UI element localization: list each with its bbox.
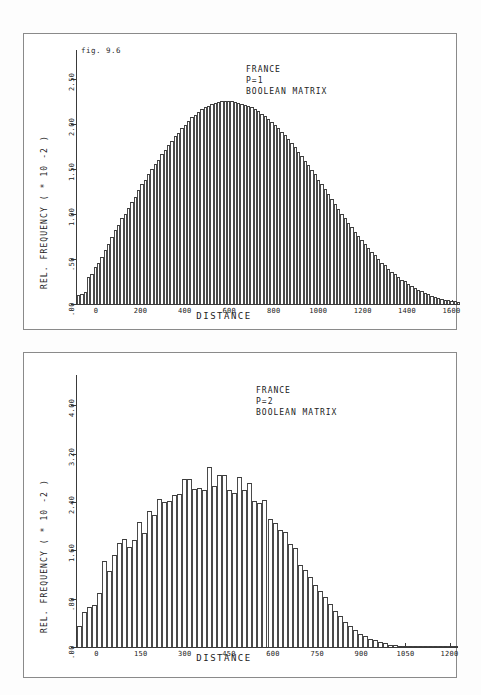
y-axis-tick-label: 3.20	[68, 447, 76, 465]
x-axis-title-2: DISTANCE	[124, 653, 324, 663]
y-axis-tick-label: 1.60	[68, 544, 76, 562]
y-axis-title-2: REL. FREQUENCY ( * 10 -2 )	[40, 479, 49, 633]
plot-area-1: .00.501.001.502.002.50020040060080010001…	[24, 34, 458, 331]
y-axis-tick-label: 1.00	[68, 207, 76, 225]
x-axis-tick-label: 1050	[385, 650, 425, 658]
x-axis-line	[76, 647, 458, 648]
y-axis-tick-label: .50	[68, 257, 76, 271]
y-axis-tick-label: 2.40	[68, 495, 76, 513]
histogram-bar	[453, 646, 458, 647]
y-axis-tick-label: 4.00	[68, 399, 76, 417]
y-axis-tick-label: 1.50	[68, 162, 76, 180]
x-axis-tick-label: 1200	[343, 307, 383, 315]
x-axis-title-1: DISTANCE	[124, 311, 324, 321]
x-axis-tick-label: 1400	[387, 307, 427, 315]
y-axis-tick-label: .00	[68, 645, 76, 659]
x-axis-tick-label: 1600	[432, 307, 472, 315]
y-axis-tick-label: .80	[68, 597, 76, 611]
x-axis-tick-label: 1200	[430, 650, 470, 658]
histogram-bar	[457, 302, 460, 304]
x-axis-tick-label: 900	[341, 650, 381, 658]
x-axis-tick-label: 0	[77, 650, 117, 658]
plot-area-2: .00.801.602.403.204.00015030045060075090…	[24, 353, 458, 679]
histogram-bars	[76, 381, 458, 647]
histogram-bars	[76, 56, 460, 304]
y-axis-tick-label: 2.50	[68, 72, 76, 90]
x-axis-line	[76, 304, 460, 305]
chart-panel-2: FRANCE P=2 BOOLEAN MATRIX .00.801.602.40…	[23, 352, 457, 678]
y-axis-tick-label: 2.00	[68, 117, 76, 135]
x-axis-tick-label: 0	[76, 307, 116, 315]
figure-page: fig. 9.6 FRANCE P=1 BOOLEAN MATRIX .00.5…	[0, 0, 481, 695]
chart-panel-1: fig. 9.6 FRANCE P=1 BOOLEAN MATRIX .00.5…	[23, 33, 457, 330]
y-axis-title-1: REL. FREQUENCY ( * 10 -2 )	[40, 135, 49, 289]
y-axis-tick-label: .00	[68, 302, 76, 316]
